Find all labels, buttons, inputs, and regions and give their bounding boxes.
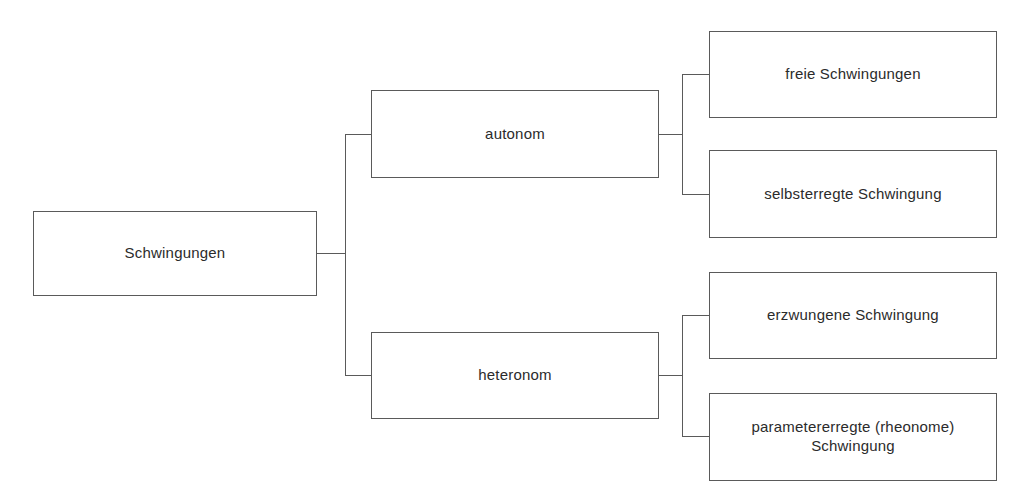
edge-autonom-to-bracket (658, 134, 683, 135)
edge-autonom-children-bracket (682, 74, 683, 195)
edge-heteronom-to-bracket (658, 375, 683, 376)
edge-bracket-to-autonom (345, 134, 371, 135)
node-selbsterregte-schwingung-label: selbsterregte Schwingung (756, 185, 949, 204)
node-schwingungen[interactable]: Schwingungen (33, 211, 317, 296)
node-heteronom[interactable]: heteronom (371, 332, 659, 419)
node-parametererregte-schwingung[interactable]: parametererregte (rheonome) Schwingung (709, 393, 997, 481)
edge-root-to-bracket (316, 253, 346, 254)
node-freie-schwingungen-label: freie Schwingungen (777, 65, 928, 84)
edge-bracket-to-selbsterregte-schwingung (682, 194, 710, 195)
node-erzwungene-schwingung-label: erzwungene Schwingung (759, 306, 947, 325)
edge-bracket-to-freie-schwingungen (682, 74, 710, 75)
node-schwingungen-label: Schwingungen (117, 244, 234, 263)
node-parametererregte-schwingung-label: parametererregte (rheonome) Schwingung (744, 418, 963, 456)
diagram-canvas: Schwingungen autonom heteronom freie Sch… (0, 0, 1026, 503)
node-freie-schwingungen[interactable]: freie Schwingungen (709, 31, 997, 118)
edge-bracket-to-parametererregte-schwingung (682, 436, 710, 437)
node-erzwungene-schwingung[interactable]: erzwungene Schwingung (709, 272, 997, 359)
node-autonom[interactable]: autonom (371, 90, 659, 178)
edge-bracket-to-erzwungene-schwingung (682, 315, 710, 316)
node-selbsterregte-schwingung[interactable]: selbsterregte Schwingung (709, 150, 997, 238)
edge-heteronom-children-bracket (682, 315, 683, 437)
edge-level1-bracket (345, 134, 346, 376)
edge-bracket-to-heteronom (345, 375, 371, 376)
node-autonom-label: autonom (477, 125, 553, 144)
node-heteronom-label: heteronom (470, 366, 560, 385)
